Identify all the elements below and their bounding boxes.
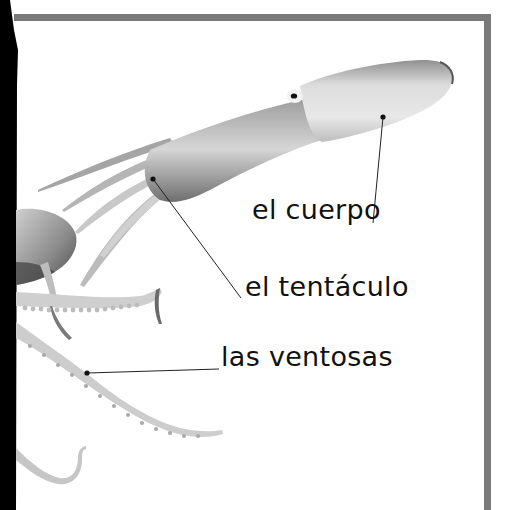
label-ventosas: las ventosas (221, 343, 393, 370)
pointer-ventosas (87, 369, 219, 373)
second-squid-body (16, 209, 223, 485)
label-tentaculo: el tentáculo (245, 273, 409, 300)
main-squid (38, 60, 453, 287)
squid-illustration (0, 0, 509, 510)
page: el cuerpo el tentáculo las ventosas (0, 0, 509, 510)
pointer-tentaculo (153, 179, 241, 298)
label-cuerpo: el cuerpo (252, 196, 381, 223)
